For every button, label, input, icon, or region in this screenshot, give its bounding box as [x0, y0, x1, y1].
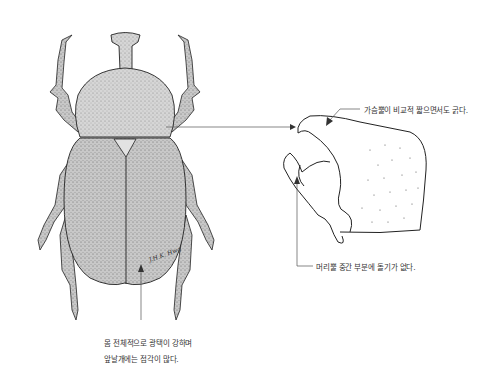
- body-annotation-line2: 앞날개에는 점각이 많다.: [104, 353, 179, 364]
- head-annotation: 머리뿔 중간 부분에 돌기가 없다.: [316, 261, 415, 272]
- pronotum: [75, 68, 174, 137]
- lateral-head-detail: [284, 116, 427, 244]
- elytra: [64, 138, 186, 285]
- head-horn: [111, 33, 140, 71]
- lateral-stipple: [361, 144, 418, 222]
- body-annotation-line1: 몸 전체적으로 광택이 강하며: [104, 337, 192, 348]
- pronotum-annotation: 가슴뿔이 비교적 짧으면서도 굵다.: [364, 104, 468, 115]
- beetle-diagram: J.H.K. Hwg: [0, 0, 503, 383]
